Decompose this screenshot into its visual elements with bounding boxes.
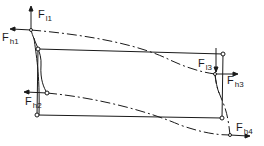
deflected-bottom-beam [47,93,230,135]
node-4 [229,134,232,137]
node-3 [214,73,217,76]
frame-bottom-beam [37,115,222,118]
label-Fh4: Fh4 [236,122,253,136]
frame-top-beam [38,49,223,54]
hinge-bottom-right [220,116,224,120]
right-column-link [215,74,219,93]
arrowhead-left-icon [24,90,29,94]
arrowhead-up-icon [29,6,33,11]
label-Fh3: Fh3 [227,75,244,89]
node-1 [30,29,33,32]
hinge-top-right [221,52,225,56]
label-Fh2: Fh2 [25,96,42,110]
hinge-top-left [36,47,40,51]
deflected-top-beam [31,30,215,74]
label-Fh1: Fh1 [2,32,19,46]
frame-right-column [222,54,223,118]
label-Fl3: Fl3 [198,58,212,72]
arrowhead-left-icon [10,27,15,31]
node-2 [45,91,49,95]
arrowhead-down-icon [214,67,218,72]
label-Fl1: Fl1 [38,9,52,23]
hinge-bottom-left [35,113,39,117]
